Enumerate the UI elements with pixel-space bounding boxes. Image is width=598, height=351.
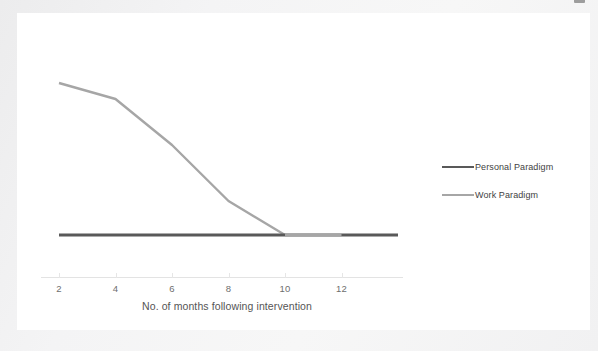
x-axis-tick-label: 10 <box>265 283 305 294</box>
x-axis-line <box>41 277 403 278</box>
x-axis-tick-label: 6 <box>152 283 192 294</box>
x-axis-tick <box>285 273 286 278</box>
x-axis-title: No. of months following intervention <box>17 300 437 312</box>
x-axis-tick <box>172 273 173 278</box>
x-axis-tick-label: 12 <box>322 283 362 294</box>
page-corner-artifact <box>574 0 585 3</box>
legend-item[interactable]: Personal Paradigm <box>442 158 590 176</box>
series-line-work-paradigm <box>59 83 285 235</box>
chart-legend: Personal ParadigmWork Paradigm <box>442 158 590 214</box>
legend-item[interactable]: Work Paradigm <box>442 186 590 204</box>
x-axis-tick <box>342 273 343 278</box>
legend-line-icon <box>442 166 474 169</box>
legend-item-label: Personal Paradigm <box>475 162 553 172</box>
legend-line-icon <box>442 194 474 197</box>
series-lines <box>17 13 437 293</box>
x-axis-tick-label: 4 <box>96 283 136 294</box>
x-axis-tick <box>229 273 230 278</box>
x-axis-tick <box>116 273 117 278</box>
legend-item-label: Work Paradigm <box>475 190 538 200</box>
plot-area: 24681012 No. of months following interve… <box>17 13 437 293</box>
x-axis-tick-label: 8 <box>209 283 249 294</box>
chart-card: 24681012 No. of months following interve… <box>17 13 590 330</box>
x-axis-tick-label: 2 <box>39 283 79 294</box>
x-axis-tick <box>59 273 60 278</box>
